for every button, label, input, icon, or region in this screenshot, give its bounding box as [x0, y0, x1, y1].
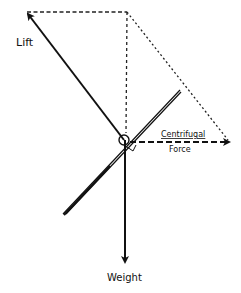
lift-arrow — [28, 14, 124, 140]
force-diagram: Lift Centrifugal Force Weight — [0, 0, 241, 293]
vertical-dashed-line — [126, 12, 127, 133]
centrifugal-label-line1: Centrifugal — [161, 130, 205, 139]
right-angle-mark — [127, 145, 136, 151]
centrifugal-label-line2: Force — [169, 145, 191, 154]
lift-label: Lift — [16, 36, 34, 49]
wing — [63, 90, 181, 215]
weight-label: Weight — [107, 272, 142, 283]
diagonal-dashed-line — [127, 12, 228, 140]
